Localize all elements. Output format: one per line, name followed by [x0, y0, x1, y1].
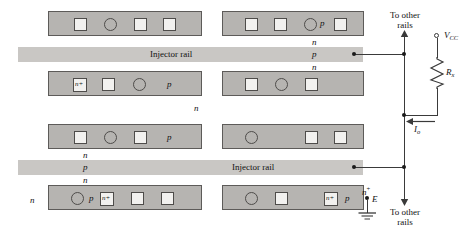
contact-circle [245, 192, 258, 205]
contact-circle [275, 78, 288, 91]
contact-square [74, 131, 87, 144]
bus-node-top [402, 52, 406, 56]
contact-label-text: n+ [75, 80, 83, 88]
bus-node-bottom [402, 165, 406, 169]
contact-square [131, 192, 144, 205]
rail-top-connection-node [352, 52, 356, 56]
contact-circle [245, 131, 258, 144]
region-label-p: p [345, 194, 350, 203]
region-label-p: p [320, 19, 325, 28]
layer-label-p: p [83, 163, 88, 172]
contact-square [134, 18, 147, 31]
bus-arrow-down [400, 196, 409, 206]
current-label-sub: o [417, 128, 420, 135]
rail-top-label: Injector rail [150, 50, 192, 59]
strip-second-right [222, 71, 364, 96]
resistor-label-sub: x [452, 71, 455, 78]
to-other-rails-top-line1: To other [377, 10, 433, 20]
rail-bottom [18, 160, 363, 175]
layer-label-n: n [83, 176, 88, 185]
ground-region-sup: + [367, 185, 371, 192]
contact-circle [304, 18, 317, 31]
contact-square [245, 78, 258, 91]
contact-square [161, 192, 174, 205]
contact-label-text: n+ [326, 194, 334, 202]
figure-canvas: p n Injector rail p n n+ p n p n [0, 0, 474, 236]
strip-third-right [222, 124, 364, 149]
ground-symbol-icon [358, 212, 377, 222]
contact-label-nplus: n+ [326, 195, 334, 202]
to-other-rails-bottom-line2: rails [377, 217, 433, 227]
rail-top-connection-wire [354, 54, 404, 55]
contact-square [275, 192, 288, 205]
strip-top-right [222, 11, 364, 36]
region-label-p: p [167, 133, 172, 142]
vcc-wire [437, 38, 438, 58]
main-bus-wire [404, 34, 405, 202]
to-other-rails-bottom-line1: To other [377, 207, 433, 217]
contact-label-text: n+ [102, 194, 110, 202]
resistor-to-bus-wire [404, 115, 438, 116]
resistor-bottom-wire [437, 88, 438, 115]
ground-label-e: E [372, 194, 378, 204]
resistor-label: Rx [446, 67, 454, 78]
vcc-label: VCC [444, 30, 458, 41]
contact-circle [104, 131, 117, 144]
to-other-rails-bottom: To other rails [377, 207, 433, 228]
bus-arrow-up [400, 30, 409, 40]
current-label-io: Io [414, 124, 420, 135]
contact-square [74, 18, 87, 31]
rail-bottom-label: Injector rail [232, 163, 274, 172]
contact-square [305, 78, 318, 91]
contact-circle [104, 18, 117, 31]
contact-square [134, 131, 147, 144]
layer-label-p: p [312, 50, 317, 59]
rail-bottom-connection-node [352, 165, 356, 169]
contact-circle [133, 78, 146, 91]
contact-circle [71, 192, 84, 205]
strip-top-left [48, 11, 202, 36]
contact-square [245, 18, 258, 31]
isolated-layer-label-n-middle: n [194, 104, 199, 113]
contact-square [305, 131, 318, 144]
layer-label-n: n [312, 38, 317, 47]
contact-square [334, 18, 347, 31]
contact-square [163, 18, 176, 31]
current-arrow-io [406, 117, 436, 126]
contact-label-nplus: n+ [75, 81, 83, 88]
contact-square [274, 18, 287, 31]
region-label-p: p [89, 194, 94, 203]
strip-bottom-left: p n+ [48, 185, 202, 210]
to-other-rails-top: To other rails [377, 10, 433, 31]
region-label-p: p [167, 80, 172, 89]
strip-second-left: n+ p [48, 71, 202, 96]
isolated-layer-label-n-left: n [30, 196, 35, 205]
vcc-label-sub: CC [450, 34, 459, 41]
contact-square [334, 131, 347, 144]
layer-label-n: n [83, 151, 88, 160]
strip-bottom-right: n+ p [222, 185, 364, 210]
strip-third-left: p [48, 124, 202, 149]
contact-label-nplus: n+ [102, 195, 110, 202]
resistor-rx [429, 57, 447, 89]
rail-bottom-connection-wire [354, 167, 404, 168]
contact-square [102, 78, 115, 91]
